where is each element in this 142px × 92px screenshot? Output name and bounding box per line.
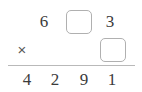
multiplicand-digit-ones: 3: [102, 13, 118, 30]
multiplication-operator-icon: ×: [14, 42, 30, 57]
multiplicand-input-tens[interactable]: [66, 10, 92, 34]
multiplier-input-ones[interactable]: [100, 38, 126, 62]
answer-separator-line: [8, 65, 135, 66]
product-digit-ones: 1: [104, 71, 120, 88]
product-digit-hundreds: 2: [47, 71, 63, 88]
multiplication-problem: 6 3 × 4 2 9 1: [0, 0, 142, 92]
multiplicand-digit-hundreds: 6: [36, 13, 52, 30]
product-digit-tens: 9: [76, 71, 92, 88]
product-digit-thousands: 4: [19, 71, 35, 88]
